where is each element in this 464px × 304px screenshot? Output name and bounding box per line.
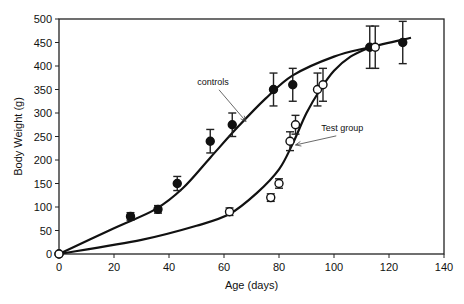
y-tick-label: 150 [34,178,52,190]
y-tick-label: 50 [40,225,52,237]
y-tick-label: 350 [34,84,52,96]
test-data-point [286,137,294,145]
y-tick-label: 400 [34,60,52,72]
control-data-point [289,81,297,89]
plot-frame [59,19,444,254]
x-tick-label: 120 [380,261,398,273]
test-data-point [371,43,379,51]
control-data-point [228,121,236,129]
test-data-point [226,208,234,216]
annotation-arrow [296,136,337,145]
y-tick-label: 0 [46,248,52,260]
test-data-point [319,81,327,89]
y-tick-label: 450 [34,37,52,49]
x-tick-label: 0 [56,261,62,273]
test-data-point [55,250,63,258]
control-data-point [127,212,135,220]
y-tick-label: 200 [34,154,52,166]
y-axis-label: Body Weight (g) [12,97,24,176]
y-tick-label: 250 [34,131,52,143]
x-tick-label: 60 [218,261,230,273]
control-data-point [154,205,162,213]
growth-chart: 0501001502002503003504004505000204060801… [0,0,464,304]
control-data-point [399,39,407,47]
x-axis-label: Age (days) [225,279,278,291]
control-data-point [206,137,214,145]
fit-line-controls [59,38,411,254]
annotation-label: controls [197,77,229,87]
test-data-point [292,121,300,129]
y-tick-label: 300 [34,107,52,119]
test-data-point [267,194,275,202]
y-tick-label: 500 [34,13,52,25]
control-data-point [173,180,181,188]
x-tick-label: 100 [325,261,343,273]
x-tick-label: 80 [273,261,285,273]
control-data-point [270,86,278,94]
x-tick-label: 20 [108,261,120,273]
x-tick-label: 140 [435,261,453,273]
y-tick-label: 100 [34,201,52,213]
annotation-label: Test group [321,123,363,133]
x-tick-label: 40 [163,261,175,273]
test-data-point [275,180,283,188]
